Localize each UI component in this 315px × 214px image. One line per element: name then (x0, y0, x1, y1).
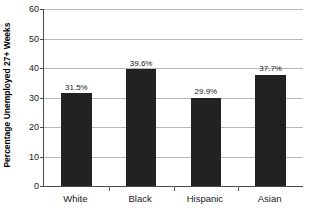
bar-chart: Percentage Unemployed 27+ Weeks 01020304… (0, 0, 315, 214)
bar-value-label: 29.9% (195, 87, 218, 96)
bar: 29.9% (191, 98, 221, 186)
x-axis-category-label: Hispanic (187, 193, 223, 204)
gridline (44, 9, 303, 10)
y-tick-mark (40, 39, 44, 40)
bar-value-label: 39.6% (130, 59, 153, 68)
y-tick-mark (40, 186, 44, 187)
y-tick-mark (40, 127, 44, 128)
y-tick-label: 0 (34, 181, 39, 191)
x-axis-category-label: Black (129, 193, 152, 204)
y-tick-mark (40, 68, 44, 69)
y-axis-title: Percentage Unemployed 27+ Weeks (0, 0, 14, 190)
y-tick-label: 20 (29, 122, 39, 132)
bar-value-label: 31.5% (65, 83, 88, 92)
x-tick-mark (109, 186, 110, 191)
plot-area: 0102030405060 31.5%39.6%29.9%37.7% (43, 9, 303, 187)
x-axis-category-label: Asian (258, 193, 282, 204)
y-tick-mark (40, 98, 44, 99)
y-tick-mark (40, 9, 44, 10)
y-tick-label: 10 (29, 152, 39, 162)
y-axis-title-text: Percentage Unemployed 27+ Weeks (2, 22, 12, 167)
bar-value-label: 37.7% (259, 64, 282, 73)
x-axis-category-label: White (63, 193, 87, 204)
bar: 31.5% (61, 93, 91, 186)
gridline (44, 39, 303, 40)
bar: 37.7% (255, 75, 285, 186)
y-tick-label: 60 (29, 4, 39, 14)
y-tick-mark (40, 157, 44, 158)
y-tick-label: 30 (29, 93, 39, 103)
y-tick-label: 50 (29, 34, 39, 44)
y-tick-label: 40 (29, 63, 39, 73)
bar: 39.6% (126, 69, 156, 186)
x-tick-mark (238, 186, 239, 191)
x-tick-mark (174, 186, 175, 191)
